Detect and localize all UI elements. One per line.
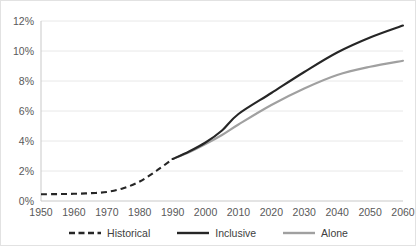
chart-plot-area: 0%2%4%6%8%10%12%195019601970198019902000… [1,1,416,246]
line-chart: 0%2%4%6%8%10%12%195019601970198019902000… [0,0,416,246]
legend-entry-alone[interactable]: Alone [282,227,348,239]
legend-entry-historical[interactable]: Historical [68,227,150,239]
solid-line-swatch-alone [282,228,316,238]
dashed-line-swatch [68,228,102,238]
y-axis-tick-label: 10% [13,45,34,57]
legend-label-inclusive: Inclusive [215,227,256,239]
x-axis-tick-label: 2030 [293,206,317,218]
y-axis-tick-label: 0% [19,195,34,207]
series-line-inclusive [173,26,403,160]
y-axis-tick-label: 2% [19,165,34,177]
x-axis-tick-label: 1960 [62,206,86,218]
solid-line-swatch-inclusive [176,228,210,238]
x-axis-tick-label: 1980 [128,206,152,218]
x-axis-tick-label: 2060 [391,206,415,218]
y-axis-tick-label: 6% [19,105,34,117]
x-axis-tick-label: 2010 [227,206,251,218]
legend-label-historical: Historical [107,227,150,239]
x-axis-tick-label: 1990 [161,206,185,218]
legend-entry-inclusive[interactable]: Inclusive [176,227,256,239]
x-axis-tick-label: 2000 [194,206,218,218]
series-line-alone [173,61,403,159]
legend-label-alone: Alone [321,227,348,239]
y-axis-tick-label: 8% [19,75,34,87]
x-axis-tick-label: 2050 [358,206,382,218]
y-axis-tick-label: 4% [19,135,34,147]
chart-legend: Historical Inclusive Alone [1,227,415,239]
x-axis-tick-label: 2040 [326,206,350,218]
y-axis-tick-label: 12% [13,15,34,27]
series-line-historical [41,159,173,194]
x-axis-tick-label: 1970 [95,206,119,218]
x-axis-tick-label: 1950 [29,206,53,218]
x-axis-tick-label: 2020 [260,206,284,218]
